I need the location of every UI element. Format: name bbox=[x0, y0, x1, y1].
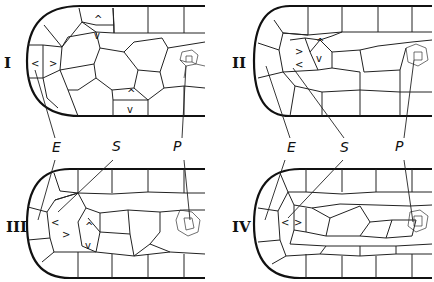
cell-mark: v bbox=[85, 240, 91, 251]
label-s-left: S bbox=[112, 138, 121, 154]
label-e-left: E bbox=[52, 139, 61, 155]
cell-mark: v bbox=[94, 30, 100, 41]
cell-mark: < bbox=[31, 58, 39, 69]
cell-mark: > bbox=[295, 46, 303, 57]
cell-mark: > bbox=[62, 229, 70, 240]
panel-numeral: IV bbox=[232, 218, 251, 236]
cell-mark: v bbox=[127, 104, 133, 115]
cell-mark: < bbox=[51, 217, 59, 228]
panel-i: I < > ^ v ^ v bbox=[4, 6, 205, 116]
cell-mark: < bbox=[295, 59, 303, 70]
cell-mark: ^ bbox=[127, 88, 135, 99]
cell-mark: ^ bbox=[316, 37, 324, 48]
label-p-right: P bbox=[395, 138, 404, 154]
cell-mark: < bbox=[281, 217, 289, 228]
panel-iv: IV < > bbox=[232, 169, 432, 278]
label-p-left: P bbox=[173, 138, 182, 154]
cell-mark: ^ bbox=[85, 221, 93, 232]
panel-iii: III < > ^ v bbox=[6, 169, 205, 278]
cell-mark: ^ bbox=[94, 14, 102, 25]
leader-lines bbox=[35, 60, 414, 222]
root-apex-diagram: I < > ^ v ^ v II < > ^ v III < > bbox=[0, 0, 434, 282]
cell-mark: > bbox=[294, 217, 302, 228]
panel-numeral: II bbox=[232, 54, 246, 72]
panel-ii: II < > ^ v bbox=[232, 6, 432, 116]
panel-numeral: I bbox=[4, 54, 11, 72]
label-e-right: E bbox=[287, 139, 296, 155]
cell-mark: > bbox=[49, 58, 57, 69]
panel-numeral: III bbox=[6, 218, 27, 236]
cell-mark: v bbox=[316, 53, 322, 64]
label-s-right: S bbox=[340, 139, 349, 155]
